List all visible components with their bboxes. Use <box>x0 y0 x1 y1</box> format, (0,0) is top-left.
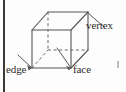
cube-front-face-edges <box>32 30 71 68</box>
label-edge: edge <box>6 64 26 75</box>
cube-hidden-bottom-back-left-edge <box>32 50 48 68</box>
cube-top-back-left-edge <box>32 12 48 30</box>
label-vertex: vertex <box>86 20 113 31</box>
stray-page-mark <box>117 61 119 68</box>
cube-diagram <box>0 0 126 92</box>
label-face: face <box>73 64 91 75</box>
face-leader-line <box>57 48 71 68</box>
figure-canvas: vertex edge face <box>0 0 126 92</box>
